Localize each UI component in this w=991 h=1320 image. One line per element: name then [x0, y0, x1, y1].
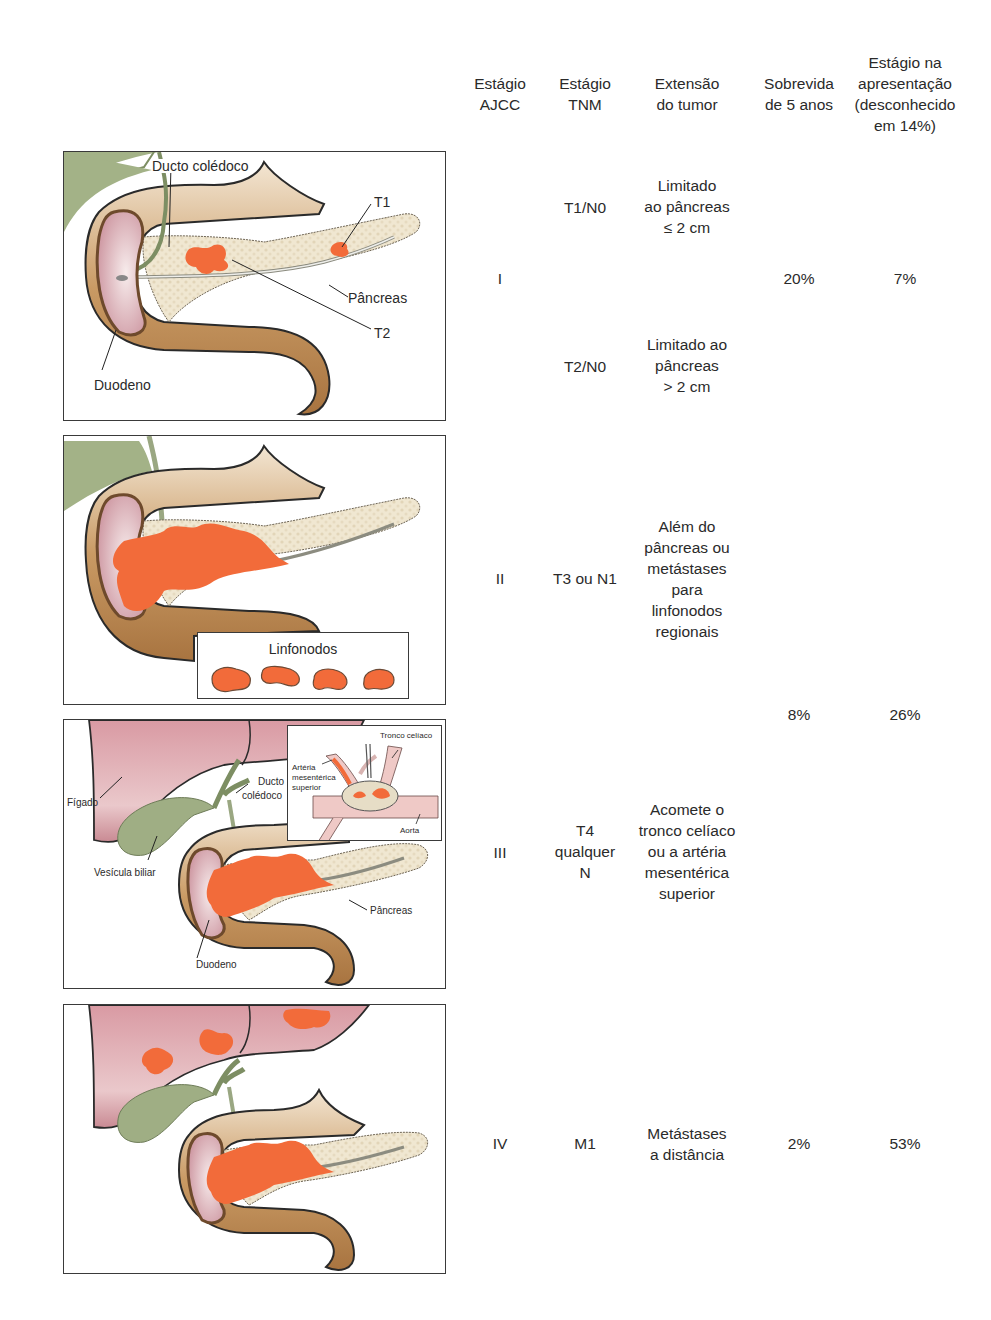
- extent-line: ≤ 2 cm: [626, 217, 748, 238]
- header-text: (desconhecido: [846, 94, 964, 115]
- header-extent: Extensão do tumor: [626, 73, 748, 115]
- tnm-line: N: [545, 862, 625, 883]
- celiac-trunk-inset: Tronco celíaco Artéria mesentérica super…: [287, 725, 442, 841]
- extent-line: ao pâncreas: [626, 196, 748, 217]
- stage-ii-illustration: Linfonodos: [63, 435, 446, 705]
- stage-iv-illustration: [63, 1004, 446, 1274]
- stage-i-t1-tnm: T1/N0: [545, 197, 625, 218]
- extent-line: Limitado ao: [626, 334, 748, 355]
- stage-i-t1-extent: Limitado ao pâncreas ≤ 2 cm: [626, 175, 748, 238]
- label-ducto: Ducto: [258, 777, 284, 787]
- label-duodeno: Duodeno: [94, 378, 151, 392]
- extent-line: superior: [626, 883, 748, 904]
- stage-ii-iii-survival: 8%: [756, 704, 842, 725]
- header-ajcc: Estágio AJCC: [462, 73, 538, 115]
- label-figado: Fígado: [67, 798, 98, 808]
- extent-line: metástases: [626, 558, 748, 579]
- label-t2: T2: [374, 326, 390, 340]
- stage-i-t2-extent: Limitado ao pâncreas > 2 cm: [626, 334, 748, 397]
- pancreas-stage-iv-drawing: [64, 1005, 446, 1274]
- extent-line: > 2 cm: [626, 376, 748, 397]
- header-text: Estágio na: [846, 52, 964, 73]
- label-pancreas: Pâncreas: [348, 291, 407, 305]
- stage-i-presentation: 7%: [846, 268, 964, 289]
- stage-iii-illustration: Fígado Ducto colédoco Vesícula biliar Pâ…: [63, 719, 446, 989]
- extent-line: Limitado: [626, 175, 748, 196]
- label-vesicula-biliar: Vesícula biliar: [94, 868, 156, 878]
- extent-line: regionais: [626, 621, 748, 642]
- extent-line: para: [626, 579, 748, 600]
- stage-i-ajcc: I: [462, 268, 538, 289]
- stage-ii-tnm: T3 ou N1: [545, 568, 625, 589]
- label-t1: T1: [374, 195, 390, 209]
- stage-i-t2-tnm: T2/N0: [545, 356, 625, 377]
- extent-line: a distância: [626, 1144, 748, 1165]
- tnm-line: qualquer: [545, 841, 625, 862]
- header-text: apresentação: [846, 73, 964, 94]
- header-presentation: Estágio na apresentação (desconhecido em…: [846, 52, 964, 136]
- label-arteria: Artéria: [292, 764, 316, 772]
- label-pancreas: Pâncreas: [370, 906, 412, 916]
- extent-line: Além do: [626, 516, 748, 537]
- label-aorta: Aorta: [400, 827, 419, 835]
- header-tnm: Estágio TNM: [545, 73, 625, 115]
- header-text: Extensão: [626, 73, 748, 94]
- header-text: AJCC: [462, 94, 538, 115]
- tnm-line: T4: [545, 820, 625, 841]
- header-text: Estágio: [462, 73, 538, 94]
- lymph-nodes-box: Linfonodos: [197, 632, 409, 699]
- stage-iv-tnm: M1: [545, 1133, 625, 1154]
- label-mesenterica: mesentérica: [292, 774, 336, 782]
- extent-line: pâncreas ou: [626, 537, 748, 558]
- header-text: Estágio: [545, 73, 625, 94]
- lymph-node-icons: [198, 633, 410, 700]
- stage-iv-ajcc: IV: [462, 1133, 538, 1154]
- extent-line: tronco celíaco: [626, 820, 748, 841]
- stage-iv-extent: Metástases a distância: [626, 1123, 748, 1165]
- extent-line: Acomete o: [626, 799, 748, 820]
- extent-line: pâncreas: [626, 355, 748, 376]
- stage-iii-extent: Acomete o tronco celíaco ou a artéria me…: [626, 799, 748, 904]
- header-text: de 5 anos: [756, 94, 842, 115]
- header-text: TNM: [545, 94, 625, 115]
- label-coledoco: colédoco: [242, 791, 282, 801]
- extent-line: mesentérica: [626, 862, 748, 883]
- extent-line: Metástases: [626, 1123, 748, 1144]
- stage-iv-presentation: 53%: [846, 1133, 964, 1154]
- stage-iii-tnm: T4 qualquer N: [545, 820, 625, 883]
- label-duodeno: Duodeno: [196, 960, 237, 970]
- label-superior: superior: [292, 784, 321, 792]
- header-text: do tumor: [626, 94, 748, 115]
- header-text: em 14%): [846, 115, 964, 136]
- stage-i-survival: 20%: [756, 268, 842, 289]
- extent-line: ou a artéria: [626, 841, 748, 862]
- stage-ii-iii-presentation: 26%: [846, 704, 964, 725]
- stage-iv-survival: 2%: [756, 1133, 842, 1154]
- extent-line: linfonodos: [626, 600, 748, 621]
- stage-ii-extent: Além do pâncreas ou metástases para linf…: [626, 516, 748, 642]
- header-text: Sobrevida: [756, 73, 842, 94]
- stage-ii-ajcc: II: [462, 568, 538, 589]
- label-ducto-coledoco: Ducto colédoco: [152, 159, 249, 173]
- label-tronco-celiaco: Tronco celíaco: [380, 732, 432, 740]
- stage-iii-ajcc: III: [462, 842, 538, 863]
- header-survival: Sobrevida de 5 anos: [756, 73, 842, 115]
- stage-i-illustration: Ducto colédoco T1 Pâncreas T2 Duodeno: [63, 151, 446, 421]
